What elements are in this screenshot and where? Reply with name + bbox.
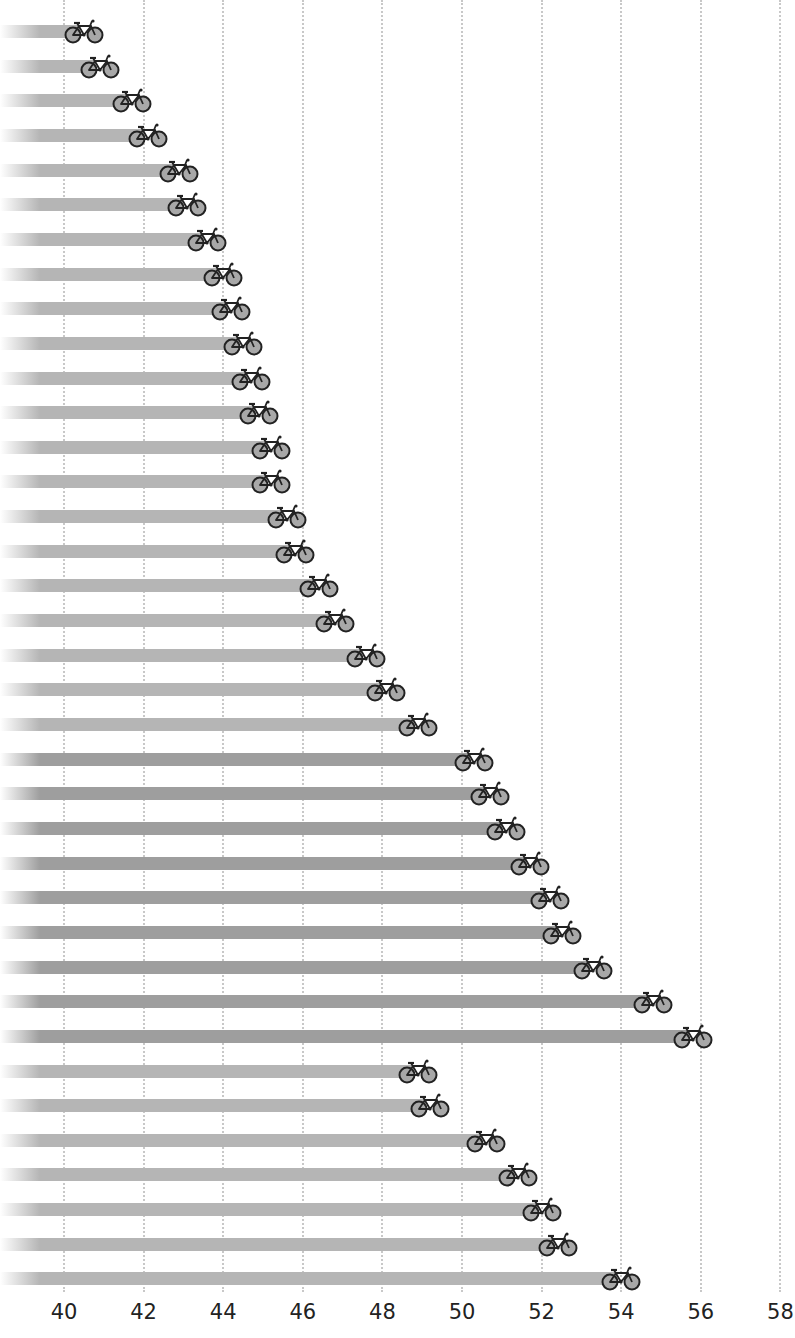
bicycle-icon [542, 919, 582, 945]
bicycle-icon [80, 53, 120, 79]
bar-row [0, 568, 795, 602]
bar-row [0, 118, 795, 152]
bicycle-icon [498, 1161, 538, 1187]
bicycle-icon [187, 226, 227, 252]
bicycle-icon [315, 607, 355, 633]
x-tick-label: 50 [432, 1300, 492, 1324]
bicycle-icon [251, 434, 291, 460]
bicycle-icon [203, 261, 243, 287]
bar-row [0, 1227, 795, 1261]
bicycle-icon [601, 1265, 641, 1291]
bicycle-icon [522, 1196, 562, 1222]
bicycle-icon [112, 87, 152, 113]
bar-row [0, 672, 795, 706]
bar [0, 718, 414, 731]
bar-row [0, 915, 795, 949]
bicycle-icon [454, 746, 494, 772]
bar [0, 1065, 414, 1078]
bar [0, 164, 175, 177]
bicycle-icon [159, 157, 199, 183]
bar [0, 372, 247, 385]
bar [0, 1238, 554, 1251]
bicycle-icon [251, 468, 291, 494]
bicycle-icon [470, 780, 510, 806]
bar-chart: 40424446485052545658 [0, 0, 795, 1338]
bicycle-icon [573, 954, 613, 980]
bicycle-icon [275, 538, 315, 564]
bar-row [0, 1054, 795, 1088]
bar-row [0, 291, 795, 325]
bar-row [0, 464, 795, 498]
bar [0, 406, 255, 419]
bicycle-icon [231, 365, 271, 391]
bar-row [0, 984, 795, 1018]
bar-row [0, 880, 795, 914]
bar [0, 649, 362, 662]
bicycle-icon [299, 572, 339, 598]
bar [0, 198, 183, 211]
bar [0, 268, 219, 281]
bar [0, 857, 526, 870]
bar-row [0, 83, 795, 117]
bar [0, 995, 649, 1008]
bar-row [0, 187, 795, 221]
bar-row [0, 1261, 795, 1295]
x-tick-label: 54 [591, 1300, 651, 1324]
bicycle-icon [346, 642, 386, 668]
bicycle-icon [267, 503, 307, 529]
x-tick-label: 40 [34, 1300, 94, 1324]
bar-row [0, 534, 795, 568]
bar-row [0, 1088, 795, 1122]
x-tick-label: 46 [273, 1300, 333, 1324]
bar-row [0, 1192, 795, 1226]
bar [0, 129, 144, 142]
bar [0, 1030, 689, 1043]
bar [0, 787, 486, 800]
bar [0, 510, 283, 523]
bar-row [0, 49, 795, 83]
bar [0, 1272, 617, 1285]
bicycle-icon [538, 1231, 578, 1257]
bar-row [0, 811, 795, 845]
bar [0, 1168, 514, 1181]
bar-row [0, 742, 795, 776]
x-tick-label: 52 [512, 1300, 572, 1324]
bar [0, 1203, 538, 1216]
bar [0, 614, 331, 627]
bar-row [0, 950, 795, 984]
bicycle-icon [211, 295, 251, 321]
bar [0, 1099, 426, 1112]
bicycle-icon [673, 1023, 713, 1049]
bicycle-icon [223, 330, 263, 356]
bar-row [0, 1157, 795, 1191]
bar-row [0, 395, 795, 429]
bicycle-icon [239, 399, 279, 425]
bar-row [0, 1123, 795, 1157]
bicycle-icon [64, 18, 104, 44]
bar [0, 822, 502, 835]
bar-row [0, 603, 795, 637]
bicycle-icon [466, 1127, 506, 1153]
bar-row [0, 361, 795, 395]
bar [0, 1134, 482, 1147]
bicycle-icon [486, 815, 526, 841]
bar-row [0, 707, 795, 741]
bicycle-icon [510, 850, 550, 876]
bar [0, 891, 546, 904]
bicycle-icon [398, 711, 438, 737]
bar-row [0, 499, 795, 533]
bar [0, 441, 267, 454]
bicycle-icon [410, 1092, 450, 1118]
bicycle-icon [530, 884, 570, 910]
x-tick-label: 56 [671, 1300, 731, 1324]
bar-row [0, 14, 795, 48]
x-tick-label: 58 [750, 1300, 795, 1324]
x-tick-label: 48 [352, 1300, 412, 1324]
x-tick-label: 42 [114, 1300, 174, 1324]
bicycle-icon [398, 1058, 438, 1084]
bicycle-icon [128, 122, 168, 148]
bar [0, 475, 267, 488]
bar [0, 233, 203, 246]
bar [0, 94, 128, 107]
bar [0, 961, 589, 974]
